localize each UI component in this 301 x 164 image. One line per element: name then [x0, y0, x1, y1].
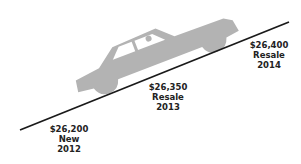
- price-2014: $26,400: [243, 40, 295, 50]
- status-2014: Resale: [243, 50, 295, 60]
- label-2012: $26,200 New 2012: [43, 124, 95, 154]
- year-2013: 2013: [142, 102, 194, 112]
- price-2013: $26,350: [142, 82, 194, 92]
- year-2014: 2014: [243, 60, 295, 70]
- price-2012: $26,200: [43, 124, 95, 134]
- label-2014: $26,400 Resale 2014: [243, 40, 295, 70]
- label-2013: $26,350 Resale 2013: [142, 82, 194, 112]
- status-2012: New: [43, 134, 95, 144]
- car-value-diagram: $26,200 New 2012 $26,350 Resale 2013 $26…: [0, 0, 301, 164]
- status-2013: Resale: [142, 92, 194, 102]
- year-2012: 2012: [43, 144, 95, 154]
